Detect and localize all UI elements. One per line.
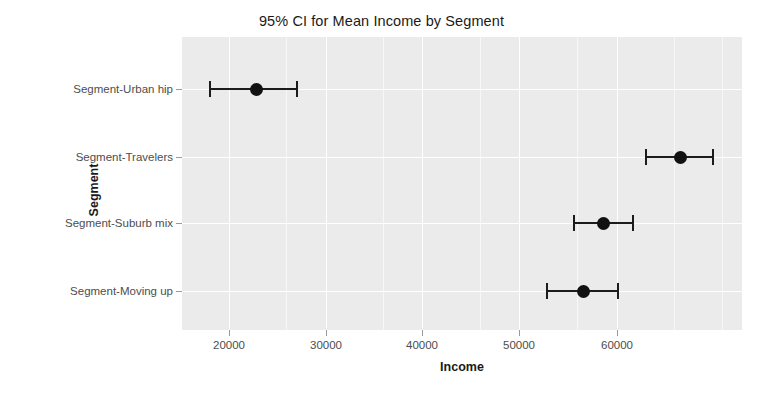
gridline-major-50000 — [519, 37, 520, 330]
ci-cap-high — [632, 215, 634, 231]
plot-panel — [182, 37, 742, 330]
chart-container: 95% CI for Mean Income by Segment — [0, 0, 763, 398]
ci-cap-low — [546, 283, 548, 299]
x-axis-title: Income — [182, 360, 742, 374]
mean-point — [250, 83, 263, 96]
mean-point — [597, 217, 610, 230]
x-tick-mark-60000 — [617, 330, 618, 336]
gridline-major-30000 — [326, 37, 327, 330]
ci-cap-high — [296, 81, 298, 97]
x-tick-mark-40000 — [422, 330, 423, 336]
ci-cap-low — [645, 149, 647, 165]
ci-cap-high — [712, 149, 714, 165]
chart-title: 95% CI for Mean Income by Segment — [0, 13, 763, 29]
gridline-minor-65000 — [674, 37, 675, 330]
x-tick-mark-50000 — [519, 330, 520, 336]
y-tick-mark-urban-hip — [176, 89, 182, 90]
x-tick-label-60000: 60000 — [601, 339, 633, 351]
mean-point — [674, 151, 687, 164]
gridline-row-moving-up — [182, 291, 742, 292]
mean-point — [577, 285, 590, 298]
x-tick-mark-30000 — [326, 330, 327, 336]
gridline-minor-45000 — [480, 37, 481, 330]
ci-travelers — [645, 145, 714, 169]
gridline-minor-35000 — [383, 37, 384, 330]
ci-moving-up — [546, 279, 619, 303]
ci-cap-high — [617, 283, 619, 299]
y-tick-label-moving-up: Segment-Moving up — [70, 285, 173, 297]
ci-cap-low — [209, 81, 211, 97]
x-tick-label-20000: 20000 — [213, 339, 245, 351]
x-tick-label-40000: 40000 — [406, 339, 438, 351]
y-tick-label-suburb-mix: Segment-Suburb mix — [65, 217, 173, 229]
y-tick-mark-moving-up — [176, 291, 182, 292]
x-tick-label-30000: 30000 — [310, 339, 342, 351]
y-axis-title: Segment — [87, 90, 101, 290]
gridline-major-40000 — [422, 37, 423, 330]
x-tick-label-50000: 50000 — [503, 339, 535, 351]
y-tick-mark-suburb-mix — [176, 223, 182, 224]
x-tick-mark-20000 — [229, 330, 230, 336]
y-tick-mark-travelers — [176, 157, 182, 158]
gridline-row-suburb-mix — [182, 223, 742, 224]
ci-cap-low — [573, 215, 575, 231]
ci-urban-hip — [209, 77, 298, 101]
ci-suburb-mix — [573, 211, 634, 235]
gridline-minor-70000 — [722, 37, 723, 330]
